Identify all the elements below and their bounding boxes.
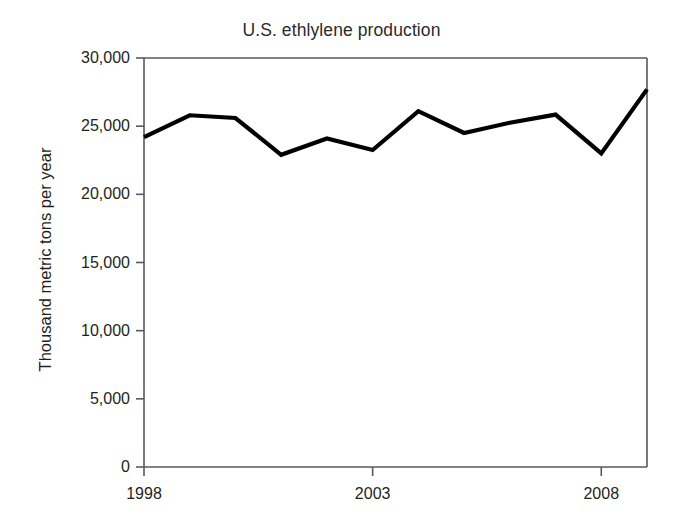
chart-figure: U.S. ethlylene production Thousand metri… xyxy=(0,0,683,531)
y-tick-label: 15,000 xyxy=(0,254,130,272)
y-tick-label: 30,000 xyxy=(0,49,130,67)
x-tick-marks xyxy=(144,467,601,476)
x-tick-label: 2008 xyxy=(583,485,619,503)
y-tick-label: 25,000 xyxy=(0,117,130,135)
x-tick-label: 2003 xyxy=(355,485,391,503)
y-tick-label: 20,000 xyxy=(0,185,130,203)
data-series-line xyxy=(144,89,647,154)
y-tick-label: 5,000 xyxy=(0,390,130,408)
y-tick-marks xyxy=(136,58,144,467)
x-tick-label: 1998 xyxy=(126,485,162,503)
y-tick-label: 0 xyxy=(0,458,130,476)
y-tick-label: 10,000 xyxy=(0,322,130,340)
axes xyxy=(144,58,647,467)
